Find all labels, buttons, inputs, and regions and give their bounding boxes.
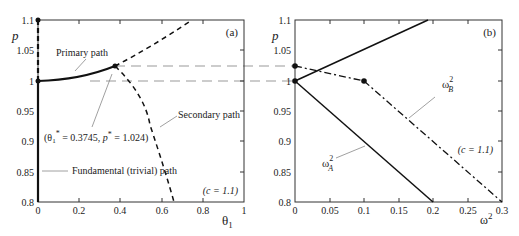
- annotation-c-a: (c = 1.1): [203, 185, 239, 197]
- label-omega-a: ω2A: [322, 154, 333, 173]
- y-tick-b-5: 0.85: [274, 167, 292, 178]
- figure: 0 0.2 0.4 0.6 0.8 1 1.1 1.05 1 0.95 0.9 …: [0, 0, 519, 236]
- x-tick-b-1: 0.05: [321, 205, 339, 216]
- x-tick-a-2: 0.4: [114, 205, 127, 216]
- y-tick-b-1: 1.05: [274, 45, 292, 56]
- y-tick-a-3: 0.95: [17, 106, 35, 117]
- primary-path-unstable: [115, 20, 192, 66]
- y-tick-a-0: 1.1: [22, 15, 35, 26]
- omega-a-lower: [295, 81, 433, 202]
- point-b-1024: [292, 63, 298, 69]
- y-tick-b-3: 0.95: [274, 106, 292, 117]
- label-omega-b: ω2B: [442, 75, 453, 94]
- omega-b-upper: [295, 66, 364, 81]
- x-tick-a-1: 0.2: [73, 205, 86, 216]
- arrow-critical: [92, 74, 112, 127]
- arrow-omega-b: [409, 97, 435, 118]
- y-tick-a-5: 0.85: [17, 167, 35, 178]
- arrow-omega-a: [336, 146, 365, 158]
- y-tick-a-2: 1: [29, 76, 34, 87]
- annotation-fundamental-path: Fundamental (trivial) path: [72, 165, 177, 177]
- annotation-primary-path: Primary path: [56, 47, 108, 58]
- panel-b: 0 0.05 0.1 0.15 0.2 0.25 0.3 1.1 1.05 1 …: [271, 15, 508, 227]
- primary-path-stable: [38, 66, 115, 81]
- annotation-critical-point: (θ1* = 0.3745, p* = 1.024): [44, 129, 148, 145]
- x-tick-b-3: 0.15: [390, 205, 408, 216]
- x-axis-label-b: ω2: [480, 211, 492, 227]
- y-tick-b-0: 1.1: [279, 15, 292, 26]
- y-tick-b-6: 0.8: [279, 197, 292, 208]
- x-tick-b-2: 0.1: [358, 205, 371, 216]
- panel-label-a: (a): [226, 26, 239, 39]
- panel-label-b: (b): [483, 26, 496, 39]
- x-axis-label-a: θ1: [222, 213, 233, 230]
- omega-b-lower: [364, 81, 502, 202]
- y-tick-a-1: 1.05: [17, 45, 35, 56]
- y-tick-b-4: 0.9: [279, 136, 292, 147]
- x-tick-a-0: 0: [36, 205, 41, 216]
- panel-a: 0 0.2 0.4 0.6 0.8 1 1.1 1.05 1 0.95 0.9 …: [11, 15, 247, 230]
- y-axis-label-a: p: [11, 28, 19, 43]
- y-tick-a-6: 0.8: [22, 197, 35, 208]
- point-critical: [113, 64, 118, 69]
- x-tick-b-5: 0.25: [459, 205, 477, 216]
- arrow-secondary: [160, 116, 177, 127]
- point-top: [36, 18, 41, 23]
- arrow-primary: [75, 59, 86, 71]
- x-tick-b-6: 0.3: [496, 205, 509, 216]
- point-b-1: [292, 78, 298, 84]
- connector-lines: [90, 66, 295, 81]
- y-tick-a-4: 0.9: [22, 136, 35, 147]
- x-tick-b-4: 0.2: [427, 205, 440, 216]
- annotation-secondary-path: Secondary path: [178, 109, 240, 120]
- y-axis-label-b: p: [271, 28, 279, 43]
- y-tick-b-2: 1: [286, 76, 291, 87]
- x-tick-a-3: 0.6: [156, 205, 169, 216]
- omega-a-upper: [295, 20, 428, 81]
- point-b-01: [361, 78, 367, 84]
- figure-svg: 0 0.2 0.4 0.6 0.8 1 1.1 1.05 1 0.95 0.9 …: [0, 0, 519, 236]
- point-bifurcation-1: [36, 79, 41, 84]
- x-tick-a-4: 0.8: [197, 205, 210, 216]
- x-tick-a-5: 1: [242, 205, 247, 216]
- annotation-c-b: (c = 1.1): [458, 144, 494, 156]
- x-tick-b-0: 0: [293, 205, 298, 216]
